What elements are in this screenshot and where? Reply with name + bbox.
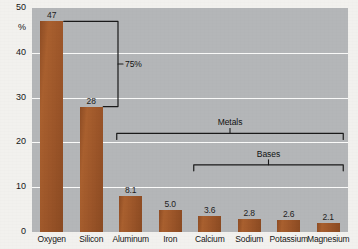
annotation-label-metals: Metals bbox=[200, 117, 260, 127]
bar-aluminum bbox=[119, 196, 142, 232]
bar-calcium bbox=[198, 216, 221, 232]
element-abundance-bar-chart: 50 % 40 30 20 10 0 47Oxygen28Silicon8.1A… bbox=[0, 0, 358, 249]
bar-value-label-iron: 5.0 bbox=[152, 199, 188, 209]
bar-value-label-potassium: 2.6 bbox=[271, 209, 307, 219]
bar-magnesium bbox=[317, 223, 340, 232]
bar-value-label-silicon: 28 bbox=[73, 96, 109, 106]
bar-value-label-sodium: 2.8 bbox=[231, 208, 267, 218]
bar-iron bbox=[159, 210, 182, 232]
y-tick-label-10: 10 bbox=[0, 181, 26, 191]
bar-value-label-aluminum: 8.1 bbox=[113, 185, 149, 195]
y-tick-label-30: 30 bbox=[0, 92, 26, 102]
y-tick-label-0: 0 bbox=[0, 226, 26, 236]
gridline-40 bbox=[32, 53, 348, 54]
y-tick-label-50: 50 bbox=[0, 2, 26, 12]
bar-value-label-oxygen: 47 bbox=[34, 10, 70, 20]
plot-area bbox=[32, 8, 348, 232]
bar-value-label-calcium: 3.6 bbox=[192, 205, 228, 215]
y-axis: 50 % 40 30 20 10 0 bbox=[0, 0, 30, 249]
bar-potassium bbox=[277, 220, 300, 232]
bar-sodium bbox=[238, 219, 261, 232]
y-tick-label-40: 40 bbox=[0, 47, 26, 57]
y-tick-label-20: 20 bbox=[0, 136, 26, 146]
bar-value-label-magnesium: 2.1 bbox=[310, 212, 346, 222]
x-tick-label-magnesium: Magnesium bbox=[302, 234, 354, 244]
annotation-label-bases: Bases bbox=[239, 149, 299, 159]
bar-silicon bbox=[80, 107, 103, 232]
y-axis-unit-label: % bbox=[0, 22, 26, 32]
annotation-label-75-percent: 75% bbox=[125, 59, 142, 69]
bar-oxygen bbox=[40, 21, 63, 232]
